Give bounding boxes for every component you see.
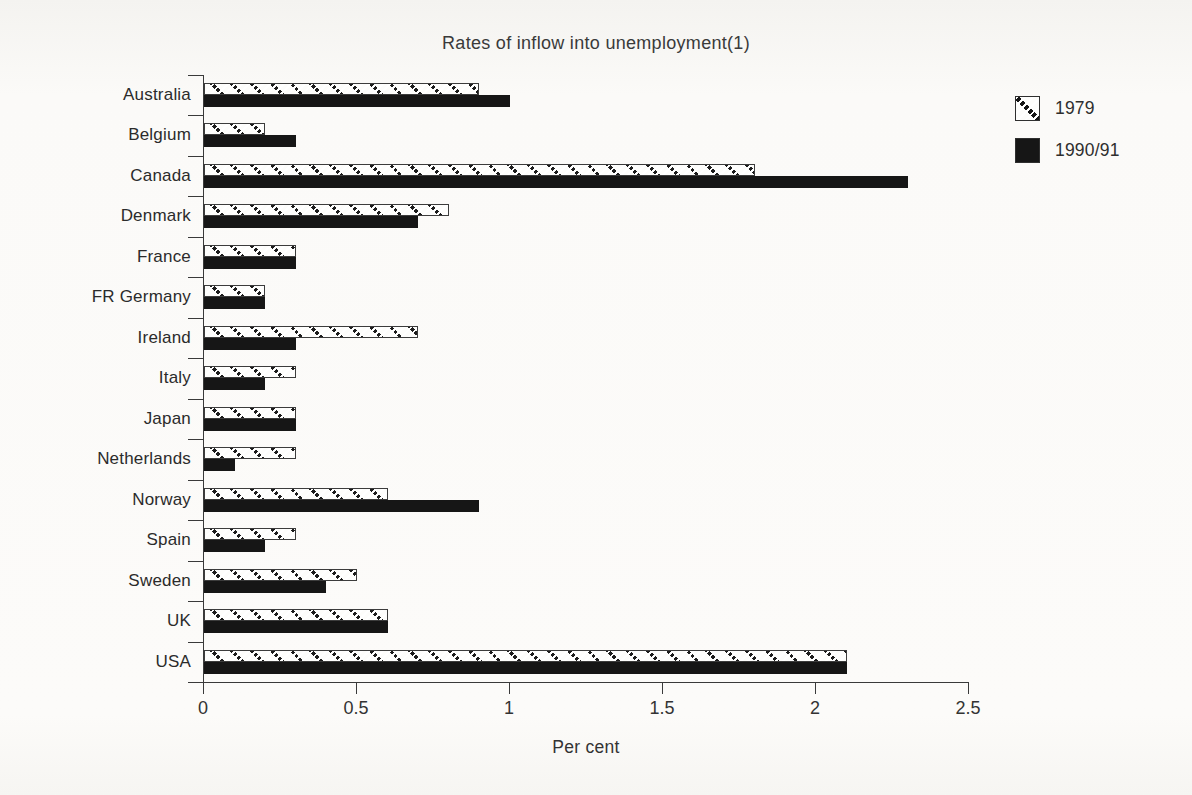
bar-1979: [204, 407, 296, 419]
category-axis-tick: [188, 439, 204, 440]
category-label: Ireland: [0, 318, 191, 358]
legend-item: 1979: [1015, 96, 1120, 121]
category-axis-tick: [188, 156, 204, 157]
category-label: USA: [0, 642, 191, 682]
category-row: Norway: [0, 480, 1192, 521]
category-label: Sweden: [0, 561, 191, 601]
bar-1990-91: [204, 459, 235, 471]
y-axis-line: [203, 75, 204, 682]
x-axis-tick: [509, 682, 510, 694]
category-label: France: [0, 237, 191, 277]
plot-area: AustraliaBelgiumCanadaDenmarkFranceFR Ge…: [0, 0, 1192, 795]
x-tick-label: 1: [504, 698, 514, 719]
legend-item: 1990/91: [1015, 138, 1120, 163]
category-label: Australia: [0, 75, 191, 115]
category-row: Canada: [0, 156, 1192, 197]
scanned-chart-page: Rates of inflow into unemployment(1) Aus…: [0, 0, 1192, 795]
category-label: Denmark: [0, 196, 191, 236]
x-tick-label: 0.5: [343, 698, 368, 719]
bar-1979: [204, 83, 479, 95]
bar-1990-91: [204, 338, 296, 350]
bar-1979: [204, 609, 388, 621]
bar-rows: AustraliaBelgiumCanadaDenmarkFranceFR Ge…: [0, 75, 1192, 682]
category-label: Japan: [0, 399, 191, 439]
category-row: Italy: [0, 358, 1192, 399]
hatched-swatch-icon: [1015, 96, 1040, 121]
solid-swatch-icon: [1015, 138, 1040, 163]
bar-1979: [204, 366, 296, 378]
legend: 19791990/91: [1015, 96, 1120, 180]
bar-1990-91: [204, 581, 326, 593]
bar-1990-91: [204, 419, 296, 431]
x-axis-tick: [356, 682, 357, 694]
x-axis-tick: [203, 682, 204, 694]
category-label: UK: [0, 601, 191, 641]
x-axis-tick: [968, 682, 969, 694]
x-axis-tick: [815, 682, 816, 694]
bar-1979: [204, 204, 449, 216]
x-tick-label: 2: [810, 698, 820, 719]
category-row: USA: [0, 642, 1192, 683]
category-label: Norway: [0, 480, 191, 520]
category-row: Sweden: [0, 561, 1192, 602]
bar-1979: [204, 447, 296, 459]
x-axis-line: [188, 682, 969, 683]
bar-1979: [204, 488, 388, 500]
x-axis-tick: [662, 682, 663, 694]
category-row: France: [0, 237, 1192, 278]
x-tick-label: 1.5: [649, 698, 674, 719]
legend-label: 1979: [1055, 98, 1095, 119]
x-axis-label: Per cent: [203, 737, 969, 758]
category-row: Netherlands: [0, 439, 1192, 480]
category-row: Belgium: [0, 115, 1192, 156]
category-axis-tick: [188, 520, 204, 521]
bar-1979: [204, 326, 418, 338]
x-tick-label: 2.5: [955, 698, 980, 719]
category-axis-tick: [188, 277, 204, 278]
category-axis-tick: [188, 642, 204, 643]
bar-1990-91: [204, 135, 296, 147]
bar-1979: [204, 285, 265, 297]
bar-1990-91: [204, 540, 265, 552]
category-row: Spain: [0, 520, 1192, 561]
bar-1990-91: [204, 95, 510, 107]
bar-1990-91: [204, 216, 418, 228]
category-axis-tick: [188, 237, 204, 238]
bar-1979: [204, 245, 296, 257]
category-axis-tick: [188, 480, 204, 481]
category-row: Denmark: [0, 196, 1192, 237]
category-label: Belgium: [0, 115, 191, 155]
bar-1990-91: [204, 257, 296, 269]
bar-1990-91: [204, 297, 265, 309]
category-axis-tick: [188, 561, 204, 562]
bar-1979: [204, 123, 265, 135]
bar-1990-91: [204, 176, 908, 188]
x-tick-label: 0: [198, 698, 208, 719]
category-label: Italy: [0, 358, 191, 398]
category-label: FR Germany: [0, 277, 191, 317]
category-axis-tick: [188, 399, 204, 400]
category-axis-tick: [188, 115, 204, 116]
category-row: Ireland: [0, 318, 1192, 359]
category-axis-tick: [188, 358, 204, 359]
category-label: Canada: [0, 156, 191, 196]
category-row: Australia: [0, 75, 1192, 116]
bar-1990-91: [204, 500, 479, 512]
category-axis-tick: [188, 682, 204, 683]
bar-1990-91: [204, 621, 388, 633]
bar-1979: [204, 569, 357, 581]
category-axis-tick: [188, 601, 204, 602]
category-label: Netherlands: [0, 439, 191, 479]
category-row: FR Germany: [0, 277, 1192, 318]
category-axis-tick: [188, 75, 204, 76]
category-row: UK: [0, 601, 1192, 642]
category-axis-tick: [188, 318, 204, 319]
category-axis-tick: [188, 196, 204, 197]
bar-1979: [204, 164, 755, 176]
legend-label: 1990/91: [1055, 140, 1120, 161]
bar-1979: [204, 650, 847, 662]
bar-1990-91: [204, 662, 847, 674]
category-row: Japan: [0, 399, 1192, 440]
bar-1979: [204, 528, 296, 540]
category-label: Spain: [0, 520, 191, 560]
